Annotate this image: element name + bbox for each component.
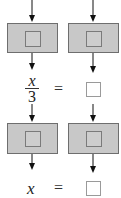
arrow-down-icon bbox=[90, 154, 96, 173]
function-machine-2b bbox=[68, 123, 119, 154]
variable-x: x bbox=[27, 180, 35, 197]
operation-slot[interactable] bbox=[25, 131, 41, 147]
answer-box-2[interactable] bbox=[86, 181, 101, 196]
arrow-down-icon bbox=[90, 104, 96, 122]
function-machine-1a bbox=[7, 23, 58, 53]
fraction-x-over-3: x 3 bbox=[25, 75, 39, 103]
function-machine-2a bbox=[7, 123, 58, 154]
operation-slot[interactable] bbox=[25, 31, 41, 47]
fraction-numerator: x bbox=[25, 75, 39, 87]
arrow-down-icon bbox=[29, 53, 35, 70]
operation-slot[interactable] bbox=[86, 31, 102, 47]
fraction-denominator: 3 bbox=[25, 90, 39, 103]
operation-slot[interactable] bbox=[86, 131, 102, 147]
arrow-down-icon bbox=[90, 53, 96, 73]
arrow-down-icon bbox=[90, 0, 96, 22]
arrow-down-icon bbox=[29, 104, 35, 122]
answer-box-1[interactable] bbox=[86, 82, 101, 97]
equals-sign: = bbox=[54, 180, 63, 196]
arrow-down-icon bbox=[29, 154, 35, 170]
arrow-down-icon bbox=[29, 0, 35, 22]
function-machine-1b bbox=[68, 23, 119, 53]
equals-sign: = bbox=[54, 81, 63, 97]
